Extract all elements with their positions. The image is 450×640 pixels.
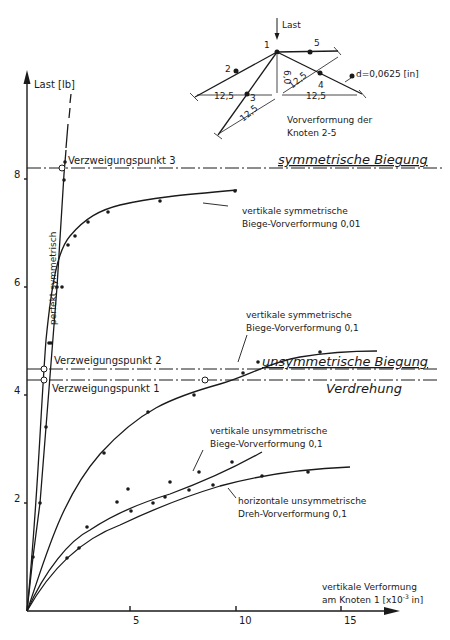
- dim-right: 12,5: [306, 91, 326, 101]
- bifurcation-points: [41, 165, 208, 383]
- bifurcation-lines: Verzweigungspunkt 3 Verzweigungspunkt 2 …: [27, 152, 445, 396]
- y-tick-8: 8: [14, 169, 20, 180]
- label-sym-001-line1: vertikale symmetrische: [242, 206, 348, 216]
- imperfection-label: d=0,0625 [in]: [356, 69, 419, 79]
- mode-label-unsymmetric: unsymmetrische Biegung: [262, 354, 428, 369]
- curves: [27, 94, 377, 611]
- inset-load-label: Last: [282, 20, 301, 30]
- label-sym-001-line2: Biege-Vorverformung 0,01: [242, 219, 360, 229]
- x-axis-arrow-icon: [384, 607, 400, 615]
- bifurcation-point-2: [41, 366, 47, 372]
- inset-structure-diagram: Last 1 2 3 4: [190, 18, 419, 139]
- y-axis-arrow-icon: [24, 70, 31, 84]
- label-perfect-symmetric: perfekt symmetrisch: [48, 232, 58, 325]
- y-tick-4: 4: [14, 385, 20, 396]
- bifurcation-point-1: [41, 377, 47, 383]
- node-label-4: 4: [318, 80, 324, 90]
- dim-diag-left: 12,5: [238, 103, 260, 124]
- label-horiz-01-line1: horizontale unsymmetrische: [238, 496, 367, 506]
- chart-canvas: 2 4 6 8 5 10 15 Last [lb] vertikale Verf…: [0, 0, 450, 640]
- label-sym-01-line1: vertikale symmetrische: [246, 310, 352, 320]
- node-label-5: 5: [314, 38, 320, 48]
- label-sym-01-line2: Biege-Vorverformung 0,1: [246, 323, 359, 333]
- bifurcation-point-1-curve: [202, 377, 208, 383]
- bifurcation-label-1: Verzweigungspunkt 1: [52, 383, 160, 394]
- node-label-2: 2: [225, 64, 231, 74]
- label-horiz-01-line2: Dreh-Vorverformung 0,1: [238, 509, 347, 519]
- curve-perfect-dashed: [66, 94, 71, 148]
- x-tick-10: 10: [239, 615, 252, 626]
- y-axis-label: Last [lb]: [34, 79, 75, 90]
- load-arrow-icon: [275, 33, 280, 40]
- mode-label-twist: Verdrehung: [326, 381, 402, 396]
- dim-height: 6,0: [282, 70, 292, 85]
- y-tick-2: 2: [14, 493, 20, 504]
- inset-caption-line2: Knoten 2-5: [287, 128, 336, 138]
- node-label-1: 1: [264, 40, 270, 50]
- x-axis-label-line1: vertikale Verformung: [322, 582, 417, 592]
- label-unsym-01-line1: vertikale unsymmetrische: [210, 426, 328, 436]
- mode-label-symmetric: symmetrische Biegung: [278, 152, 428, 167]
- bifurcation-label-2: Verzweigungspunkt 2: [54, 355, 162, 366]
- bifurcation-point-3: [59, 165, 65, 171]
- label-unsym-01-line2: Biege-Vorverformung 0,1: [210, 439, 323, 449]
- inset-caption-line1: Vorverformung der: [287, 115, 372, 125]
- dim-left: 12,5: [214, 91, 234, 101]
- y-tick-6: 6: [14, 277, 20, 288]
- x-tick-5: 5: [133, 615, 139, 626]
- x-tick-15: 15: [344, 615, 357, 626]
- node-label-3: 3: [250, 93, 256, 103]
- curve-unsym-01: [27, 452, 262, 611]
- x-axis-label-line2: am Knoten 1 [x10-3 in]: [322, 593, 423, 605]
- bifurcation-label-3: Verzweigungspunkt 3: [68, 155, 176, 166]
